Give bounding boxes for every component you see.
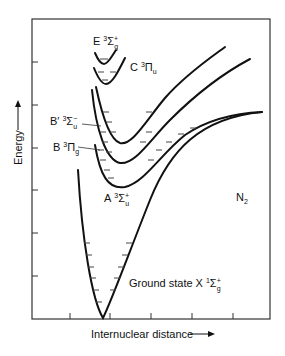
label-c-state: C3Πu bbox=[130, 61, 157, 75]
leader-b bbox=[78, 147, 100, 150]
molecule-label: N2 bbox=[236, 191, 248, 205]
label-e-state: E3Σ+g bbox=[93, 35, 118, 51]
y-axis-ticks bbox=[32, 62, 38, 276]
y-axis-label-text: Energy bbox=[12, 130, 24, 165]
curve-c-state bbox=[94, 58, 125, 84]
x-axis-ticks bbox=[70, 313, 233, 319]
curve-e-state bbox=[95, 50, 116, 64]
potential-energy-diagram: E3Σ+g C3Πu B′3Σ−u B3Πg A3Σ+u Ground stat… bbox=[0, 0, 285, 356]
label-ground-state-x: Ground stateX1Σ+g bbox=[129, 277, 221, 293]
y-axis-arrowhead-icon bbox=[15, 100, 21, 107]
x-axis-label: Internuclear distance bbox=[91, 328, 215, 340]
x-axis-label-text: Internuclear distance bbox=[91, 328, 193, 340]
levels-bprime-state bbox=[103, 112, 152, 132]
label-bprime-state: B′3Σ−u bbox=[50, 115, 77, 130]
levels-ground-state-x bbox=[84, 243, 132, 302]
label-a-state: A3Σ+u bbox=[104, 192, 129, 207]
y-axis-label: Energy bbox=[12, 100, 24, 165]
label-b-state: B3Πg bbox=[53, 141, 79, 156]
x-axis-arrowhead-icon bbox=[208, 331, 215, 337]
